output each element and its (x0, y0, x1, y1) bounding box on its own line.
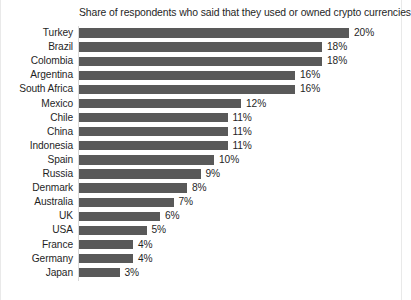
value-label: 12% (246, 97, 266, 111)
bar-row: Brazil18% (1, 40, 403, 54)
bar-fill (79, 57, 322, 66)
bar-fill (79, 240, 133, 249)
bar-row: Turkey20% (1, 26, 403, 40)
category-label: Argentina (1, 68, 73, 82)
bar-fill (79, 99, 241, 108)
category-label: Mexico (1, 97, 73, 111)
bar-row: Colombia18% (1, 54, 403, 68)
bar-row: Spain10% (1, 153, 403, 167)
plot-area: Turkey20%Brazil18%Colombia18%Argentina16… (1, 26, 403, 288)
bar-fill (79, 169, 201, 178)
bar-fill (79, 212, 160, 221)
bar-fill (79, 198, 174, 207)
category-label: Chile (1, 111, 73, 125)
bar-fill (79, 28, 349, 37)
bar-fill (79, 254, 133, 263)
category-label: Colombia (1, 54, 73, 68)
bar-row: China11% (1, 125, 403, 139)
category-label: Spain (1, 153, 73, 167)
category-label: Russia (1, 167, 73, 181)
value-label: 11% (233, 111, 252, 125)
bar-fill (79, 141, 228, 150)
value-label: 9% (206, 167, 221, 181)
value-label: 10% (219, 153, 239, 167)
category-label: Australia (1, 195, 73, 209)
bar-fill (79, 226, 147, 235)
value-label: 4% (138, 238, 153, 252)
bar-row: Australia7% (1, 195, 403, 209)
value-label: 4% (138, 252, 153, 266)
value-label: 3% (125, 266, 140, 280)
value-label: 16% (300, 82, 320, 96)
value-label: 16% (300, 68, 320, 82)
value-label: 18% (327, 54, 347, 68)
bar-fill (79, 42, 322, 51)
value-label: 7% (179, 195, 194, 209)
category-label: Germany (1, 252, 73, 266)
bar-row: Germany4% (1, 252, 403, 266)
chart-title: Share of respondents who said that they … (79, 6, 397, 19)
bar-row: Chile11% (1, 111, 403, 125)
category-label: UK (1, 209, 73, 223)
bar-row: Japan3% (1, 266, 403, 280)
value-label: 11% (233, 125, 252, 139)
value-label: 6% (165, 209, 180, 223)
category-label: China (1, 125, 73, 139)
bar-row: France4% (1, 238, 403, 252)
value-label: 8% (192, 181, 207, 195)
category-label: Denmark (1, 181, 73, 195)
category-label: Turkey (1, 26, 73, 40)
bar-fill (79, 155, 214, 164)
bar-row: Denmark8% (1, 181, 403, 195)
bar-fill (79, 183, 187, 192)
bar-row: USA5% (1, 223, 403, 237)
bar-row: Indonesia11% (1, 139, 403, 153)
bar-row: Argentina16% (1, 68, 403, 82)
bar-row: UK6% (1, 209, 403, 223)
bar-fill (79, 113, 228, 122)
bar-fill (79, 127, 228, 136)
bar-fill (79, 268, 120, 277)
bar-row: Mexico12% (1, 97, 403, 111)
bar-fill (79, 71, 295, 80)
value-label: 11% (233, 139, 252, 153)
value-label: 5% (152, 223, 167, 237)
bar-row: Russia9% (1, 167, 403, 181)
bar-row: South Africa16% (1, 82, 403, 96)
category-label: Japan (1, 266, 73, 280)
category-label: USA (1, 223, 73, 237)
category-label: Brazil (1, 40, 73, 54)
category-label: South Africa (1, 82, 73, 96)
bar-fill (79, 85, 295, 94)
value-label: 20% (354, 26, 374, 40)
value-label: 18% (327, 40, 347, 54)
category-label: France (1, 238, 73, 252)
category-label: Indonesia (1, 139, 73, 153)
